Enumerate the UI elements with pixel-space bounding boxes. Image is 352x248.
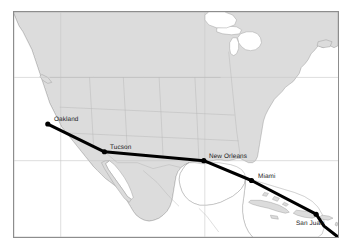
stop-marker-tucson[interactable] <box>102 149 107 154</box>
stop-marker-san-juan[interactable] <box>314 212 319 217</box>
city-label-miami: Miami <box>258 173 276 180</box>
city-label-oakland: Oakland <box>54 116 79 123</box>
city-label-new-orleans: New Orleans <box>209 153 247 160</box>
route-map-figure: Oakland Tucson New Orleans Miami San Jua… <box>0 0 352 248</box>
stop-marker-oakland[interactable] <box>45 121 50 126</box>
stop-marker-new-orleans[interactable] <box>201 158 206 163</box>
city-label-san-juan: San Juan <box>296 220 324 227</box>
map-frame: Oakland Tucson New Orleans Miami San Jua… <box>13 11 339 238</box>
map-canvas <box>14 12 338 237</box>
city-label-tucson: Tucson <box>110 144 131 151</box>
stop-marker-miami[interactable] <box>249 178 254 183</box>
